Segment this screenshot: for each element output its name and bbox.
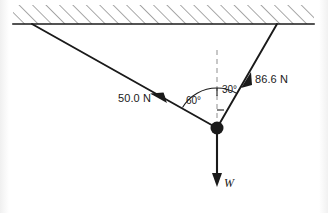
left-angle-label: 60° (186, 96, 201, 106)
hatched-ceiling-icon (13, 5, 314, 24)
knot-node-icon (211, 122, 224, 135)
right-force-label: 86.6 N (255, 74, 288, 85)
weight-arrow-icon (212, 128, 222, 187)
force-diagram-svg (0, 0, 328, 213)
right-angle-label: 30° (222, 85, 237, 95)
physics-diagram-canvas: 50.0 N 86.6 N 60° 30° W (0, 0, 328, 213)
left-rope-line (32, 24, 217, 128)
right-tension-arrow-icon (241, 72, 252, 88)
left-tension-arrow-icon (150, 93, 167, 104)
weight-label: W (224, 177, 234, 189)
left-force-label: 50.0 N (118, 93, 151, 104)
